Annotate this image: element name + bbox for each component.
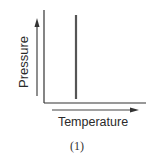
arrow-right-icon: [130, 108, 139, 113]
y-axis-label: Pressure: [16, 36, 31, 88]
arrow-up-icon: [35, 18, 40, 27]
figure-caption: (1): [70, 139, 84, 154]
x-axis-label: Temperature: [58, 115, 128, 129]
